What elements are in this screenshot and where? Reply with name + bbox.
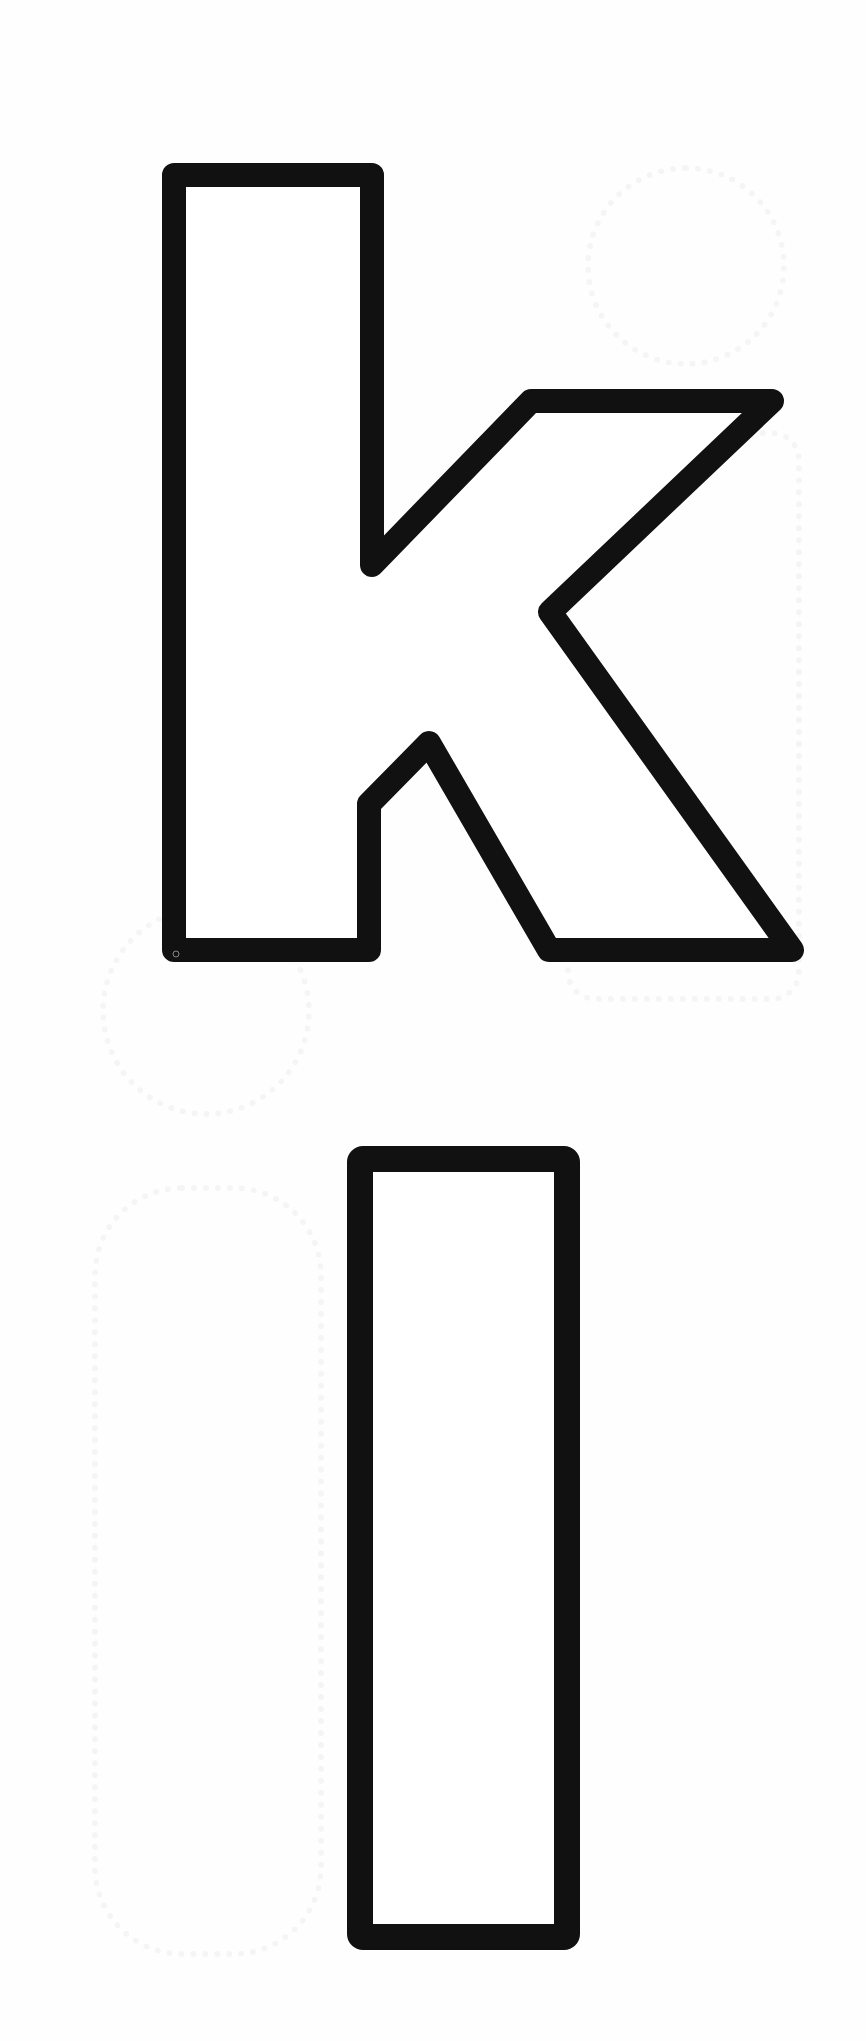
letters-canvas: k l	[0, 0, 866, 2041]
letter-k-outline: k	[0, 0, 792, 950]
document-page: k l	[0, 0, 866, 2041]
letter-l-label: l	[0, 0, 4, 3]
